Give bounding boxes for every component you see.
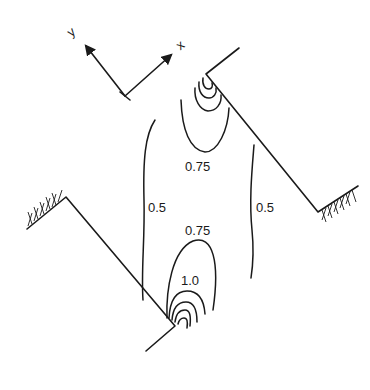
upper-contours	[181, 78, 229, 152]
label-right-05: 0.5	[256, 200, 274, 215]
y-axis-arrow	[86, 46, 125, 96]
axis-indicator: y x	[64, 24, 188, 100]
label-lower-075: 0.75	[185, 223, 210, 238]
label-lower-10: 1.0	[181, 273, 199, 288]
right-wall-outline	[206, 48, 358, 212]
contour-upper-inner-1	[195, 88, 221, 111]
label-upper-075: 0.75	[185, 159, 210, 174]
contour-lower-inner-3	[178, 318, 187, 328]
contour-upper-075	[181, 100, 229, 152]
label-left-05: 0.5	[148, 200, 166, 215]
x-axis-arrow	[125, 55, 171, 96]
left-wall-hatching	[28, 190, 62, 226]
right-wall	[206, 48, 358, 222]
left-wall-outline	[27, 197, 175, 351]
contour-right-05	[251, 145, 254, 278]
contour-lower-10	[169, 291, 205, 318]
contour-diagram: y x	[0, 0, 370, 390]
x-axis-label: x	[173, 37, 188, 53]
y-axis-label: y	[64, 24, 79, 40]
